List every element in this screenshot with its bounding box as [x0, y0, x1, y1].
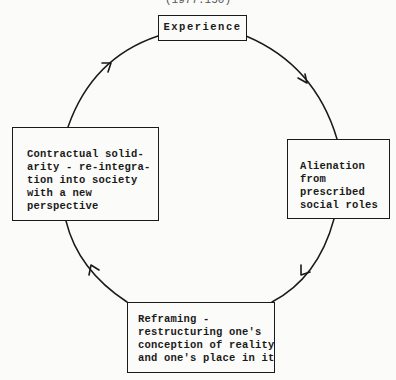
node-label: Reframing - restructuring one's concepti…: [138, 313, 274, 365]
edge-solidarity-to-experience: [68, 36, 158, 127]
node-reframing: Reframing - restructuring one's concepti…: [127, 302, 275, 373]
edge-alienation-to-reframing: [272, 219, 334, 302]
node-label: Alienation from prescribed social roles: [300, 160, 389, 212]
edge-reframing-to-solidarity: [66, 221, 127, 302]
node-alienation: Alienation from prescribed social roles: [287, 139, 390, 219]
node-experience: Experience: [158, 15, 247, 41]
node-contractual-solidarity: Contractual solid- arity - re-integra- t…: [12, 127, 159, 221]
edge-experience-to-alienation: [246, 36, 337, 139]
node-label: Contractual solid- arity - re-integra- t…: [27, 148, 158, 213]
node-label: Experience: [159, 21, 246, 34]
arrowhead-icon: [102, 63, 111, 72]
arrowhead-icon: [301, 265, 310, 275]
